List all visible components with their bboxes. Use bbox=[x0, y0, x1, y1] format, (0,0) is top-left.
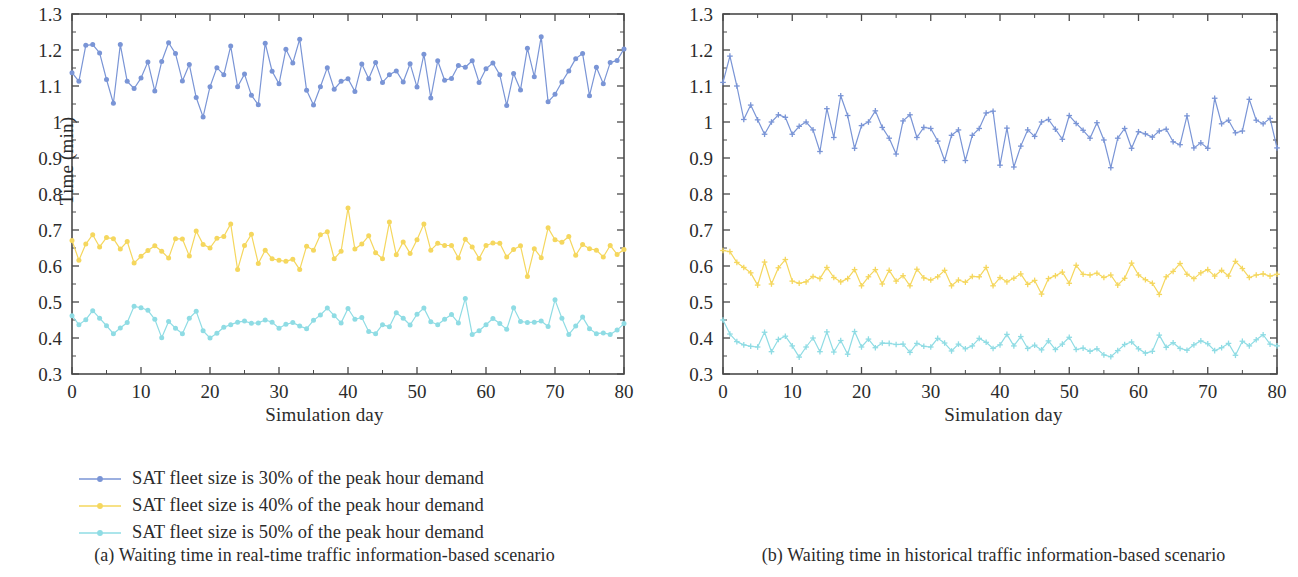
legend-label-30-a: SAT fleet size is 30% of the peak hour d… bbox=[132, 468, 484, 489]
legend-label-40-a: SAT fleet size is 40% of the peak hour d… bbox=[132, 495, 484, 516]
svg-text:10: 10 bbox=[783, 381, 802, 402]
svg-text:0.9: 0.9 bbox=[689, 148, 713, 169]
caption-a: (a) Waiting time in real-time traffic in… bbox=[0, 545, 649, 566]
svg-text:20: 20 bbox=[201, 381, 220, 402]
svg-text:1.3: 1.3 bbox=[689, 4, 713, 25]
svg-text:80: 80 bbox=[615, 381, 634, 402]
svg-text:0: 0 bbox=[718, 381, 728, 402]
svg-text:30: 30 bbox=[270, 381, 289, 402]
svg-text:1.1: 1.1 bbox=[38, 76, 62, 97]
svg-text:10: 10 bbox=[132, 381, 151, 402]
y-axis-title-a: Time (min) bbox=[56, 96, 78, 226]
svg-text:0.3: 0.3 bbox=[689, 364, 713, 385]
svg-text:0.6: 0.6 bbox=[38, 256, 62, 277]
panel-a: 0.30.40.50.60.70.80.911.11.21.3010203040… bbox=[0, 0, 649, 577]
svg-text:0.3: 0.3 bbox=[38, 364, 62, 385]
svg-text:40: 40 bbox=[339, 381, 358, 402]
legend-a: SAT fleet size is 30% of the peak hour d… bbox=[78, 466, 484, 545]
plot-b: 0.30.40.50.60.70.80.911.11.21.3010203040… bbox=[649, 0, 1298, 440]
svg-text:1.1: 1.1 bbox=[689, 76, 713, 97]
svg-text:80: 80 bbox=[1268, 381, 1287, 402]
chart-a-svg: 0.30.40.50.60.70.80.911.11.21.3010203040… bbox=[0, 0, 649, 440]
svg-text:1.3: 1.3 bbox=[38, 4, 62, 25]
svg-text:20: 20 bbox=[852, 381, 871, 402]
legend-marker-50-a bbox=[78, 523, 122, 543]
svg-text:0.6: 0.6 bbox=[689, 256, 713, 277]
legend-marker-30-a bbox=[78, 469, 122, 489]
svg-text:0.5: 0.5 bbox=[689, 292, 713, 313]
legend-marker-40-a bbox=[78, 496, 122, 516]
x-axis-title-a: Simulation day bbox=[0, 404, 649, 426]
plot-a: 0.30.40.50.60.70.80.911.11.21.3010203040… bbox=[0, 0, 649, 440]
caption-b: (b) Waiting time in historical traffic i… bbox=[649, 545, 1298, 566]
svg-text:0.4: 0.4 bbox=[38, 328, 62, 349]
legend-item-50-a: SAT fleet size is 50% of the peak hour d… bbox=[78, 520, 484, 545]
svg-text:1.2: 1.2 bbox=[38, 40, 62, 61]
svg-text:0.7: 0.7 bbox=[689, 220, 713, 241]
legend-label-50-a: SAT fleet size is 50% of the peak hour d… bbox=[132, 522, 484, 543]
svg-text:30: 30 bbox=[921, 381, 940, 402]
figure-container: 0.30.40.50.60.70.80.911.11.21.3010203040… bbox=[0, 0, 1298, 577]
legend-item-40-a: SAT fleet size is 40% of the peak hour d… bbox=[78, 493, 484, 518]
svg-text:70: 70 bbox=[546, 381, 565, 402]
svg-text:0.8: 0.8 bbox=[689, 184, 713, 205]
svg-text:1: 1 bbox=[704, 112, 714, 133]
svg-text:40: 40 bbox=[991, 381, 1010, 402]
panel-b: 0.30.40.50.60.70.80.911.11.21.3010203040… bbox=[649, 0, 1298, 577]
x-axis-title-b: Simulation day bbox=[649, 404, 1298, 426]
svg-text:70: 70 bbox=[1198, 381, 1217, 402]
chart-b-svg: 0.30.40.50.60.70.80.911.11.21.3010203040… bbox=[649, 0, 1298, 440]
svg-text:1.2: 1.2 bbox=[689, 40, 713, 61]
svg-text:0: 0 bbox=[67, 381, 77, 402]
svg-text:60: 60 bbox=[1129, 381, 1148, 402]
svg-text:0.5: 0.5 bbox=[38, 292, 62, 313]
svg-text:0.4: 0.4 bbox=[689, 328, 713, 349]
legend-item-30-a: SAT fleet size is 30% of the peak hour d… bbox=[78, 466, 484, 491]
svg-text:50: 50 bbox=[408, 381, 427, 402]
svg-text:60: 60 bbox=[477, 381, 496, 402]
svg-text:50: 50 bbox=[1060, 381, 1079, 402]
